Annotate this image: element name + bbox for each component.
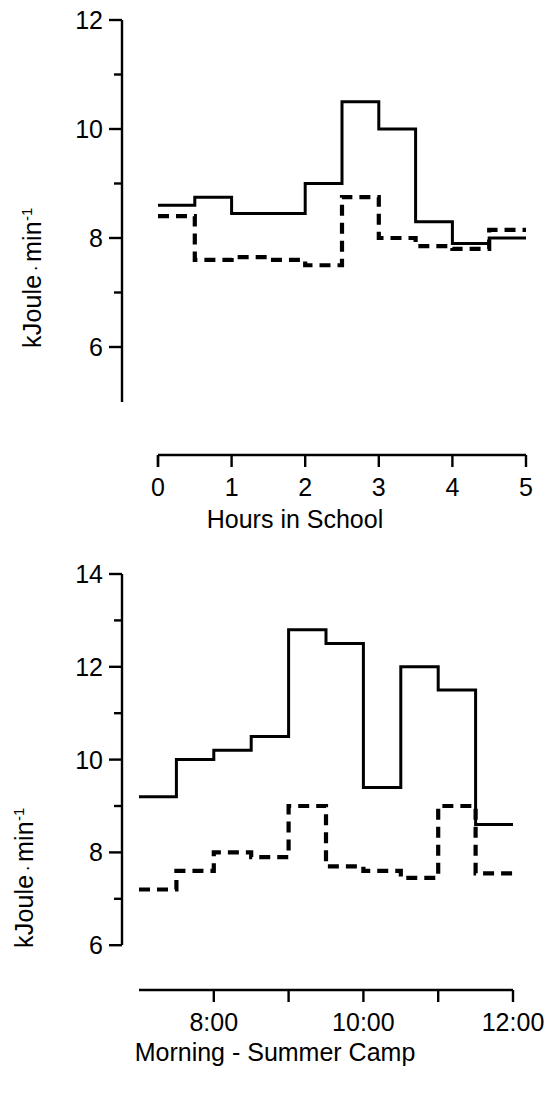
xtick-label: 5 <box>519 473 533 501</box>
figure-page: 681012 012345 kJoule·min-1 Hours in Scho… <box>0 0 547 1096</box>
camp-y-axis-label: kJoule·min-1 <box>10 628 39 948</box>
school-plot-svg: 681012 012345 <box>0 0 547 548</box>
xtick-label: 0 <box>151 473 165 501</box>
camp-axes <box>109 574 513 1002</box>
camp-ytick-labels: 68101214 <box>75 560 103 959</box>
school-x-axis-label: Hours in School <box>60 505 530 534</box>
camp-ylabel-text: kJoule <box>10 875 38 948</box>
camp-plot-svg: 68101214 8:0010:0012:00 <box>0 548 547 1096</box>
xtick-label: 4 <box>445 473 459 501</box>
series-solid-step-line <box>158 102 526 244</box>
chart-panel-school: 681012 012345 kJoule·min-1 Hours in Scho… <box>0 0 547 548</box>
xtick-label: 1 <box>225 473 239 501</box>
ytick-label: 6 <box>89 333 103 361</box>
school-xtick-labels: 012345 <box>151 473 533 501</box>
camp-series <box>139 630 513 890</box>
camp-xtick-labels: 8:0010:0012:00 <box>189 1008 544 1036</box>
xtick-label: 2 <box>298 473 312 501</box>
camp-ylabel-exponent: -1 <box>10 807 27 821</box>
ytick-label: 12 <box>75 6 103 34</box>
ytick-label: 12 <box>75 653 103 681</box>
ytick-label: 10 <box>75 115 103 143</box>
chart-panel-camp: 68101214 8:0010:0012:00 kJoule·min-1 Mor… <box>0 548 547 1096</box>
camp-ylabel-unit: min <box>10 821 38 862</box>
xtick-label: 8:00 <box>189 1008 238 1036</box>
school-ylabel-separator: · <box>24 262 45 275</box>
ytick-label: 8 <box>89 838 103 866</box>
camp-ylabel-separator: · <box>16 862 37 875</box>
school-y-axis-label: kJoule·min-1 <box>18 28 47 348</box>
series-dashed-step-line <box>139 806 513 890</box>
school-series <box>158 102 526 266</box>
ytick-label: 6 <box>89 931 103 959</box>
school-ylabel-unit: min <box>18 221 46 262</box>
camp-x-axis-label: Morning - Summer Camp <box>40 1038 510 1067</box>
ytick-label: 10 <box>75 746 103 774</box>
series-solid-step-line <box>139 630 513 825</box>
school-ylabel-text: kJoule <box>18 275 46 348</box>
school-ytick-labels: 681012 <box>75 6 103 361</box>
xtick-label: 12:00 <box>482 1008 545 1036</box>
xtick-label: 10:00 <box>332 1008 395 1036</box>
series-dashed-step-line <box>158 197 526 265</box>
ytick-label: 8 <box>89 224 103 252</box>
school-ylabel-exponent: -1 <box>18 207 35 221</box>
xtick-label: 3 <box>372 473 386 501</box>
ytick-label: 14 <box>75 560 103 588</box>
